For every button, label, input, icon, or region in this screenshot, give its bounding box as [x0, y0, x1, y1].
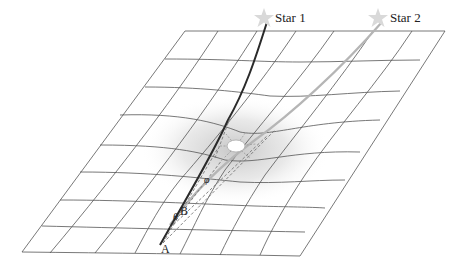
point-a-label: A — [161, 243, 170, 255]
star1-icon — [254, 8, 274, 27]
star2-label: Star 2 — [390, 11, 421, 24]
angle-phi-label: φ — [204, 175, 210, 185]
star2-icon — [368, 8, 388, 27]
angle-theta-label: θ — [173, 212, 178, 222]
lensing-diagram: Star 1 Star 2 A B θ φ — [0, 0, 463, 265]
point-b-label: B — [180, 205, 188, 217]
diagram-canvas — [0, 0, 463, 265]
star1-label: Star 1 — [275, 11, 306, 24]
